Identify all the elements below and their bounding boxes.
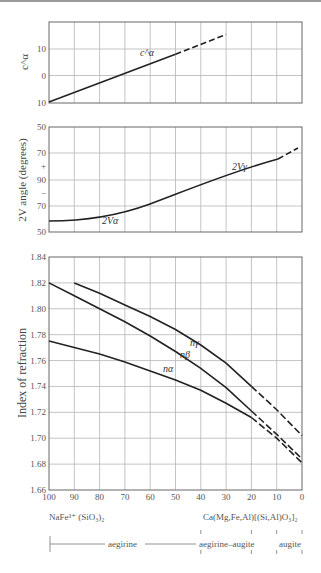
2v-gamma-curve-dashed [278, 148, 298, 159]
y-tick-label: 90 [37, 175, 47, 185]
x-tick-label: 30 [222, 492, 232, 502]
2v-alpha-label: 2Vα [102, 215, 119, 226]
y-tick-label: 1.80 [30, 304, 46, 314]
x-tick-label: 80 [95, 492, 105, 502]
y-tick-label: 1.82 [30, 278, 46, 288]
y-tick-label: 1.74 [30, 381, 46, 391]
right-formula: Ca(Mg,Fe,Al)[(Si,Al)O₃]₂ [203, 512, 298, 522]
y-tick-label: 50 [37, 227, 47, 237]
x-tick-label: 100 [42, 492, 56, 502]
y-tick-label: 1.72 [30, 407, 46, 417]
x-tick-label: 60 [146, 492, 156, 502]
n-gamma-label: nγ [190, 337, 200, 348]
y-tick-label: 70 [37, 201, 47, 211]
range-aegirine: aegirine [108, 539, 137, 549]
y-tick-label: 10 [37, 44, 47, 54]
y-tick-label: + [41, 161, 46, 171]
n-alpha-label: nα [163, 363, 174, 374]
y-tick-label: 1.68 [30, 459, 46, 469]
range-aegirine-augite: aegirine–augite [199, 539, 254, 549]
range-augite: augite [279, 539, 301, 549]
y-axis-label-bottom: Index of refraction [15, 328, 29, 418]
x-tick-label: 70 [120, 492, 130, 502]
x-tick-label: 20 [247, 492, 257, 502]
y-tick-label: 1.78 [30, 330, 46, 340]
x-tick-label: 50 [171, 492, 181, 502]
y-tick-label: 0 [42, 71, 47, 81]
y-axis-label-top: c^α [18, 54, 30, 70]
x-tick-label: 0 [300, 492, 305, 502]
y-tick-label: − [41, 188, 46, 198]
chart-canvas: 100105070+90−70501.841.821.801.781.761.7… [0, 0, 321, 573]
y-tick-label: 1.84 [30, 252, 46, 262]
2v-gamma-label: 2Vγ [232, 161, 248, 172]
y-tick-label: 70 [37, 148, 47, 158]
x-tick-label: 40 [196, 492, 206, 502]
y-tick-label: 1.70 [30, 433, 46, 443]
x-tick-label: 90 [70, 492, 80, 502]
left-formula: NaFe³⁺ (SiO₃)₂ [49, 512, 104, 522]
y-tick-label: 50 [37, 122, 47, 132]
c-alpha-label: c^α [140, 47, 155, 58]
x-tick-label: 10 [272, 492, 282, 502]
y-tick-label: 1.76 [30, 356, 46, 366]
y-axis-label-mid: 2V angle (degrees) [16, 138, 29, 222]
c-alpha-curve [49, 54, 176, 102]
y-tick-label: 10 [37, 98, 47, 108]
n-beta-label: nβ [180, 349, 190, 360]
